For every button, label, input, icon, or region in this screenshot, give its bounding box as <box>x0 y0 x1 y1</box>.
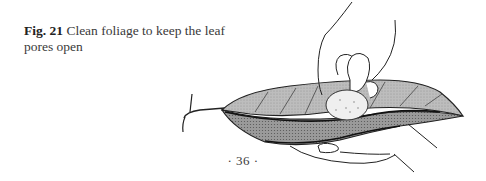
page-number: · 36 · <box>0 153 486 169</box>
cotton-ball <box>326 90 368 120</box>
book-page: Fig. 21 Clean foliage to keep the leaf p… <box>0 0 486 181</box>
leaf-stem <box>183 94 225 132</box>
